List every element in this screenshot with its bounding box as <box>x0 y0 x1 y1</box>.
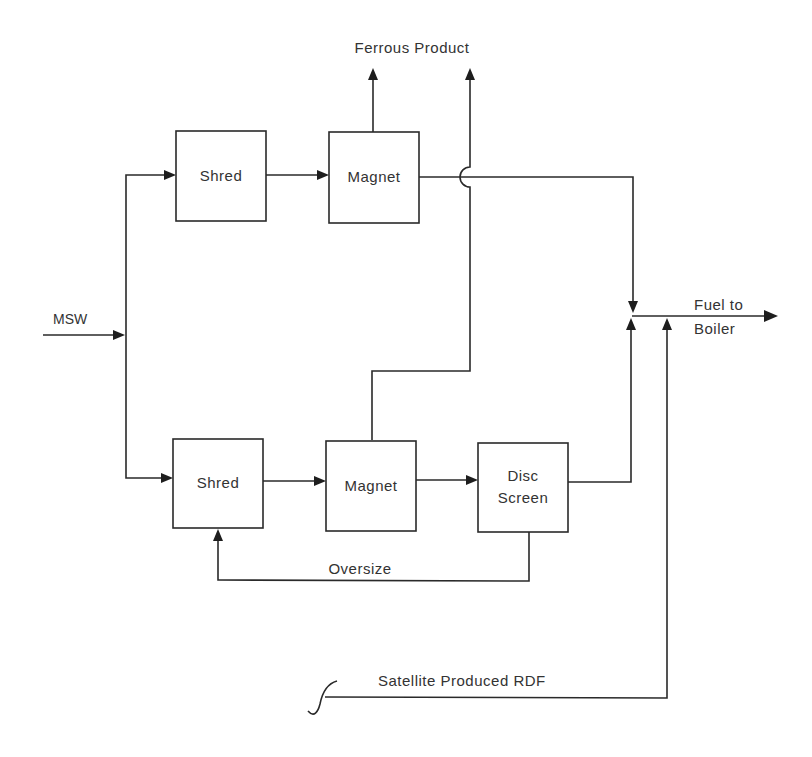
screen-to-merge-arrow-icon <box>626 318 636 330</box>
top-magnet-output-line-b <box>462 177 633 303</box>
split-bus <box>126 170 176 483</box>
process-flow-diagram: MSW Shred Magnet Ferrous Product Shred <box>0 0 812 757</box>
oversize-label: Oversize <box>328 560 391 577</box>
top-magnet-label: Magnet <box>347 168 400 185</box>
screen-to-merge-line <box>568 330 631 482</box>
top-shred-label: Shred <box>200 167 243 184</box>
bottom-ferrous-arrow-icon <box>465 68 475 80</box>
top-line: Shred Magnet <box>176 68 638 313</box>
satellite-rdf-arrow-icon <box>662 318 672 330</box>
bottom-ferrous-path <box>372 68 475 440</box>
disc-screen-label-line1: Disc <box>507 467 538 484</box>
bottom-magnet-label: Magnet <box>344 477 397 494</box>
to-top-shred-arrow-icon <box>164 170 176 180</box>
bottom-line: Shred Magnet Disc Screen Oversize <box>173 318 636 581</box>
msw-arrow-icon <box>113 330 125 340</box>
bottom-shred-to-magnet-arrow-icon <box>314 476 326 486</box>
to-bottom-shred-arrow-icon <box>161 473 173 483</box>
ferrous-product-label: Ferrous Product <box>354 39 469 56</box>
msw-input: MSW <box>43 311 125 340</box>
msw-label: MSW <box>53 311 88 327</box>
disc-screen-box <box>478 443 568 532</box>
oversize-arrow-icon <box>213 529 223 541</box>
split-bus-line <box>126 175 166 478</box>
top-to-merge-arrow-icon <box>628 301 638 313</box>
fuel-label-line1: Fuel to <box>694 296 743 313</box>
bottom-shred-label: Shred <box>197 474 240 491</box>
fuel-output-arrow-icon <box>764 310 778 322</box>
disc-screen-label-line2: Screen <box>498 489 549 506</box>
bottom-magnet-to-screen-arrow-icon <box>466 475 478 485</box>
satellite-rdf-label: Satellite Produced RDF <box>378 672 546 689</box>
top-shred-to-magnet-arrow-icon <box>317 170 329 180</box>
fuel-output: Fuel to Boiler <box>632 296 778 337</box>
top-ferrous-arrow-icon <box>368 68 378 80</box>
fuel-label-line2: Boiler <box>694 320 735 337</box>
